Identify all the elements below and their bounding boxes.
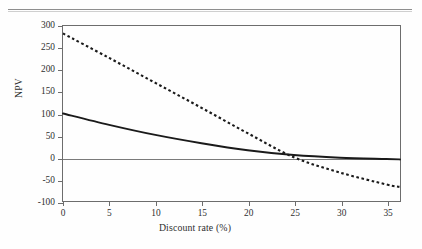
y-axis-tick-label: 250: [41, 43, 55, 52]
y-axis-tick: [58, 92, 63, 93]
y-axis-tick-label: 100: [41, 110, 55, 119]
y-axis-tick-label: -50: [43, 176, 56, 185]
y-axis-tick-label: 200: [41, 66, 55, 75]
y-axis-tick-label: 50: [46, 132, 55, 141]
curve-layer: [63, 26, 400, 201]
series-line-dashed: [63, 33, 400, 187]
x-axis-tick-label: 25: [291, 209, 300, 218]
y-axis-tick-label: 150: [41, 88, 55, 97]
page-canvas: NPV -100-5005010015020025030005101520253…: [0, 0, 422, 249]
series-line-solid: [63, 114, 400, 160]
x-axis-title-text: Discount rate (%): [159, 222, 231, 233]
x-axis-tick-label: 20: [244, 209, 253, 218]
y-axis-tick: [58, 137, 63, 138]
y-axis-tick: [58, 48, 63, 49]
x-axis-tick-label: 35: [383, 209, 392, 218]
y-axis-tick-label: 300: [41, 21, 55, 30]
x-axis-tick: [63, 201, 64, 206]
y-axis-tick: [58, 115, 63, 116]
y-axis-tick: [58, 181, 63, 182]
npv-profile-chart: NPV -100-5005010015020025030005101520253…: [0, 0, 422, 249]
y-axis-tick-label: -100: [38, 198, 55, 207]
x-axis-title: Discount rate (%): [0, 222, 422, 233]
x-axis-tick: [156, 201, 157, 206]
x-axis-tick: [202, 201, 203, 206]
x-axis-tick-label: 5: [107, 209, 112, 218]
y-axis-tick: [58, 26, 63, 27]
x-axis-tick-label: 30: [337, 209, 346, 218]
y-axis-title: NPV: [13, 78, 24, 98]
x-axis-tick-label: 15: [198, 209, 207, 218]
x-axis-tick-label: 0: [61, 209, 66, 218]
x-axis-tick: [249, 201, 250, 206]
x-axis-tick: [109, 201, 110, 206]
x-axis-tick: [342, 201, 343, 206]
x-axis-tick-label: 10: [151, 209, 160, 218]
plot-area: -100-5005010015020025030005101520253035: [62, 25, 401, 202]
x-axis-tick: [295, 201, 296, 206]
y-axis-tick-label: 0: [50, 154, 55, 163]
y-axis-tick: [58, 159, 63, 160]
y-axis-tick: [58, 70, 63, 71]
x-axis-tick: [388, 201, 389, 206]
